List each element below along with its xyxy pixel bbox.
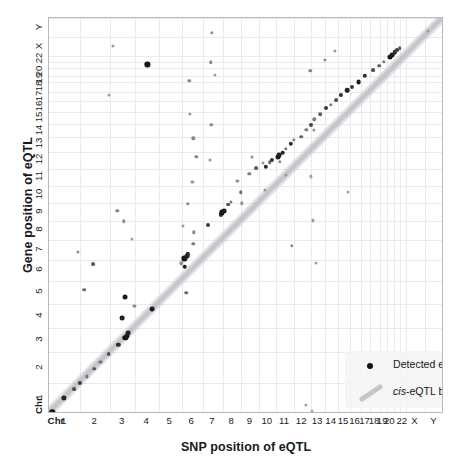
- data-point: [250, 155, 253, 158]
- gridline-horizontal: [49, 328, 442, 329]
- data-point: [188, 112, 191, 115]
- gridline-horizontal: [49, 56, 442, 57]
- x-tick-label-14: 14: [325, 415, 336, 427]
- legend-point-swatch: [351, 353, 391, 379]
- legend-label-cis-band: cis-eQTL band: [393, 385, 443, 397]
- data-point: [254, 166, 258, 170]
- gridline-vertical: [223, 18, 224, 412]
- gridline-horizontal: [49, 37, 442, 38]
- y-tick-label-Y: Y: [33, 19, 45, 35]
- data-point: [186, 202, 189, 205]
- gridline-horizontal: [49, 304, 442, 305]
- data-point: [122, 219, 125, 222]
- data-point: [309, 123, 313, 127]
- y-tick-label-8: 8: [33, 221, 45, 237]
- data-point: [49, 409, 54, 413]
- data-point: [281, 150, 286, 155]
- data-point: [222, 208, 227, 213]
- data-point: [226, 203, 230, 207]
- data-point: [126, 330, 131, 335]
- data-point: [210, 31, 213, 34]
- gridline-horizontal: [49, 203, 442, 204]
- gridline-vertical: [203, 18, 204, 412]
- x-tick-label-10: 10: [261, 415, 272, 427]
- data-point: [310, 409, 313, 412]
- data-point: [72, 387, 76, 391]
- gridline-vertical: [338, 18, 339, 412]
- data-point: [116, 209, 119, 212]
- data-point: [111, 45, 114, 48]
- legend-band-swatch: [351, 380, 391, 406]
- gridline-horizontal: [49, 124, 442, 125]
- gridline-vertical: [182, 18, 183, 412]
- x-tick-label-7: 7: [209, 415, 214, 427]
- x-tick-label-3: 3: [119, 415, 124, 427]
- gridline-horizontal: [49, 101, 442, 102]
- gridline-vertical: [135, 18, 136, 412]
- plot-area: Detected eQTL cis-eQTL band: [48, 17, 443, 413]
- gridline-horizontal: [49, 137, 442, 138]
- legend-item-cis-band: cis-eQTL band: [345, 380, 443, 406]
- gridline-horizontal: [49, 112, 442, 113]
- x-tick-label-2: 2: [92, 415, 97, 427]
- legend-label-detected-eqtl: Detected eQTL: [393, 358, 443, 370]
- y-tick-label-7: 7: [33, 241, 45, 257]
- x-tick-label-X: X: [411, 415, 417, 427]
- data-point: [78, 381, 82, 385]
- gridline-horizontal: [49, 18, 442, 19]
- gridline-horizontal: [49, 76, 442, 77]
- data-point: [363, 74, 367, 78]
- y-tick-label-5: 5: [33, 283, 45, 299]
- data-point: [334, 98, 338, 102]
- data-point: [312, 128, 315, 131]
- data-point: [208, 158, 211, 161]
- data-point: [183, 264, 188, 269]
- data-point: [292, 138, 295, 141]
- y-tick-label-9: 9: [33, 203, 45, 219]
- gridline-vertical: [241, 18, 242, 412]
- x-tick-label-6: 6: [189, 415, 194, 427]
- legend-label-cis-rest: -eQTL band: [406, 385, 443, 397]
- gridline-vertical: [311, 18, 312, 412]
- x-tick-label-11: 11: [279, 415, 289, 427]
- data-point: [120, 315, 125, 320]
- data-point: [150, 307, 155, 312]
- gridline-vertical: [259, 18, 260, 412]
- eqtl-scatter-figure: Gene position of eQTL Detected eQTL cis-…: [0, 0, 459, 466]
- gridline-vertical: [159, 18, 160, 412]
- gridline-horizontal: [49, 240, 442, 241]
- y-tick-label-1: 1: [33, 389, 45, 405]
- data-point: [377, 64, 381, 68]
- data-point: [61, 396, 66, 401]
- data-point: [181, 225, 184, 228]
- data-point: [356, 79, 361, 84]
- gridline-vertical: [294, 18, 295, 412]
- data-point: [240, 202, 243, 205]
- data-point: [210, 123, 213, 126]
- data-point: [107, 352, 111, 356]
- data-point: [350, 85, 354, 89]
- x-tick-label-1: 1: [61, 415, 66, 427]
- x-tick-label-22: 22: [396, 415, 407, 427]
- gridline-horizontal: [49, 260, 442, 261]
- data-point: [85, 375, 88, 378]
- data-point: [186, 252, 190, 256]
- data-point: [270, 158, 274, 162]
- data-point: [426, 29, 429, 32]
- data-point: [191, 137, 194, 140]
- data-point: [304, 128, 307, 131]
- data-point: [289, 141, 293, 145]
- data-point: [123, 295, 128, 300]
- gridline-horizontal: [49, 169, 442, 170]
- x-tick-label-5: 5: [167, 415, 172, 427]
- data-point: [314, 262, 317, 265]
- data-point: [284, 174, 287, 177]
- data-point: [91, 262, 95, 266]
- x-tick-label-9: 9: [247, 415, 252, 427]
- gridline-horizontal: [49, 152, 442, 153]
- y-tick-label-12: 12: [33, 151, 45, 167]
- data-point: [185, 291, 189, 295]
- data-point: [99, 361, 102, 364]
- data-point: [82, 288, 86, 292]
- data-point: [209, 61, 212, 64]
